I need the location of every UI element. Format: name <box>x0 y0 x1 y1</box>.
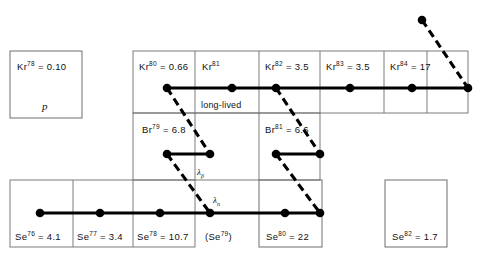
long-lived-label: long-lived <box>201 100 242 110</box>
kr80-to-br79-dashed-branch <box>167 88 210 154</box>
cell-label-kr82: Kr82 = 3.5 <box>265 60 309 72</box>
kr84-upper-dashed-branch <box>422 20 468 88</box>
node-dot-kr83 <box>346 84 355 93</box>
node-dot-kr86 <box>464 84 473 93</box>
node-dot-br82 <box>316 150 325 159</box>
node-dot-se78 <box>156 209 165 218</box>
node-dot-br81 <box>272 150 281 159</box>
nuclide-chain-figure: Kr78 = 0.10 p Kr80 = 0.66 Kr81 Kr82 = 3.… <box>0 0 482 261</box>
lambda-beta-label: λβ <box>196 167 204 179</box>
node-dot-se77 <box>96 209 105 218</box>
node-dot-br79 <box>163 150 172 159</box>
br81-to-se80-dashed-branch <box>276 154 320 213</box>
cell-label-br79: Br79 = 6.8 <box>142 123 186 135</box>
node-dot-se76 <box>36 209 45 218</box>
cell-label-kr80: Kr80 = 0.66 <box>139 60 188 72</box>
node-dot-se80 <box>281 209 290 218</box>
cell-label-se76: Se76 = 4.1 <box>15 230 61 242</box>
cell-label-br81: Br81 = 6.6 <box>265 123 309 135</box>
cell-label-se78: Se78 = 10.7 <box>137 230 189 242</box>
node-dot-br80 <box>206 150 215 159</box>
node-dot-kr80 <box>163 84 172 93</box>
cell-label-kr84: Kr84 = 17 <box>390 60 431 72</box>
p-process-label: p <box>41 100 48 112</box>
node-dot-upper-right <box>418 16 427 25</box>
cell-label-se80: Se80 = 22 <box>266 230 309 242</box>
cell-label-kr78: Kr78 = 0.10 <box>17 60 66 72</box>
node-dot-kr84 <box>408 84 417 93</box>
kr82-to-br81-dashed-branch <box>276 88 320 154</box>
node-dot-se79 <box>206 209 215 218</box>
br79-to-se79-dashed-branch <box>167 154 210 213</box>
figure-canvas: Kr78 = 0.10 p Kr80 = 0.66 Kr81 Kr82 = 3.… <box>0 0 482 261</box>
cell-label-se77: Se77 = 3.4 <box>77 230 123 242</box>
node-dot-kr81 <box>228 84 237 93</box>
cell-label-kr81: Kr81 <box>202 60 220 72</box>
cell-label-se82: Se82 = 1.7 <box>392 230 438 242</box>
lambda-n-label: λn <box>212 195 220 207</box>
cell-label-kr83: Kr83 = 3.5 <box>326 60 370 72</box>
cell-label-se79: (Se79) <box>205 230 232 242</box>
node-dot-se82 <box>316 209 325 218</box>
node-dot-kr82 <box>272 84 281 93</box>
